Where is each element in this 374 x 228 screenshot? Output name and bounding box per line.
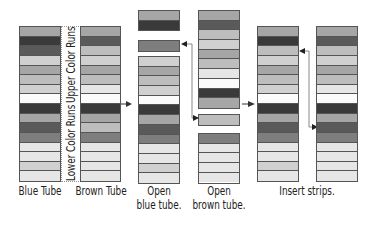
color-stripe xyxy=(81,66,120,76)
color-stripe xyxy=(258,152,298,162)
color-stripe xyxy=(20,46,60,56)
color-stripe xyxy=(317,104,357,114)
color-stripe xyxy=(258,37,298,47)
tube-segment xyxy=(138,56,180,184)
color-stripe xyxy=(20,56,60,66)
color-stripe xyxy=(258,133,298,143)
color-stripe xyxy=(81,27,120,37)
color-stripe xyxy=(20,94,60,104)
brown-tube-label: Brown Tube xyxy=(71,184,132,198)
color-stripe xyxy=(258,66,298,76)
color-stripe xyxy=(139,125,179,135)
color-stripe xyxy=(20,37,60,47)
color-stripe xyxy=(258,123,298,133)
color-stripe xyxy=(317,133,357,143)
color-stripe xyxy=(81,152,120,162)
upper-color-runs-label: Upper Color Runs xyxy=(64,26,78,103)
color-stripe xyxy=(317,56,357,66)
color-stripe xyxy=(139,86,179,96)
insert-brown-result-tube xyxy=(316,26,358,182)
open-brown-tube-label: Open brown tube. xyxy=(187,184,251,212)
color-stripe xyxy=(81,114,120,124)
color-stripe xyxy=(139,67,179,77)
color-stripe xyxy=(139,135,179,145)
color-stripe xyxy=(199,69,239,79)
color-stripe xyxy=(199,115,239,125)
blue-tube-label-text: Blue Tube xyxy=(19,184,62,198)
color-stripe xyxy=(258,114,298,124)
color-stripe xyxy=(139,41,179,51)
color-stripe xyxy=(81,143,120,153)
color-stripe xyxy=(258,94,298,104)
color-stripe xyxy=(317,85,357,95)
tube-segment xyxy=(198,10,240,109)
brown-tube-label-text: Brown Tube xyxy=(75,184,126,198)
color-stripe xyxy=(20,66,60,76)
color-stripe xyxy=(317,171,357,181)
color-stripe xyxy=(317,37,357,47)
color-stripe xyxy=(258,171,298,181)
color-stripe xyxy=(20,123,60,133)
swap-connector-arrows xyxy=(180,40,200,122)
color-stripe xyxy=(20,85,60,95)
color-stripe xyxy=(317,75,357,85)
open-brown-label-line1: Open xyxy=(207,184,231,198)
color-stripe xyxy=(199,173,239,183)
removed-strip-segment xyxy=(138,40,180,52)
color-stripe xyxy=(81,133,120,143)
color-stripe xyxy=(81,56,120,66)
color-stripe xyxy=(199,98,239,108)
color-stripe xyxy=(199,50,239,60)
color-stripe xyxy=(139,115,179,125)
color-stripe xyxy=(139,11,179,21)
removed-strip-segment xyxy=(198,114,240,126)
color-stripe xyxy=(81,75,120,85)
insert-strips-label: Insert strips. xyxy=(270,184,344,198)
color-stripe xyxy=(199,144,239,154)
color-stripe xyxy=(20,104,60,114)
color-stripe xyxy=(20,152,60,162)
color-stripe xyxy=(199,30,239,40)
color-stripe xyxy=(199,21,239,31)
color-stripe xyxy=(81,162,120,172)
color-stripe xyxy=(199,79,239,89)
blue-tube-label: Blue Tube xyxy=(7,184,73,198)
color-stripe xyxy=(317,143,357,153)
color-stripe xyxy=(20,114,60,124)
color-stripe xyxy=(81,104,120,114)
color-stripe xyxy=(139,173,179,183)
color-stripe xyxy=(199,89,239,99)
color-stripe xyxy=(139,57,179,67)
color-stripe xyxy=(20,27,60,37)
color-stripe xyxy=(258,46,298,56)
tube-segment xyxy=(138,10,180,31)
insert-blue-result-tube xyxy=(257,26,299,182)
color-stripe xyxy=(317,162,357,172)
color-stripe xyxy=(139,154,179,164)
color-stripe xyxy=(258,162,298,172)
color-stripe xyxy=(20,171,60,181)
color-stripe xyxy=(258,75,298,85)
color-stripe xyxy=(81,94,120,104)
color-stripe xyxy=(317,66,357,76)
color-stripe xyxy=(139,164,179,174)
open-brown-label-line2: brown tube. xyxy=(192,198,245,212)
color-stripe xyxy=(199,40,239,50)
color-stripe xyxy=(139,76,179,86)
color-stripe xyxy=(81,171,120,181)
color-stripe xyxy=(258,104,298,114)
color-stripe xyxy=(317,114,357,124)
color-stripe xyxy=(81,46,120,56)
color-stripe xyxy=(258,143,298,153)
color-stripe xyxy=(258,27,298,37)
arrow-right-icon xyxy=(121,100,133,108)
open-blue-tube-label: Open blue tube. xyxy=(130,184,187,212)
color-stripe xyxy=(199,59,239,69)
insert-strips-label-text: Insert strips. xyxy=(279,184,334,198)
color-stripe xyxy=(139,96,179,106)
blue-tube xyxy=(19,26,61,182)
color-stripe xyxy=(317,123,357,133)
color-stripe xyxy=(20,75,60,85)
color-stripe xyxy=(20,143,60,153)
color-stripe xyxy=(81,85,120,95)
